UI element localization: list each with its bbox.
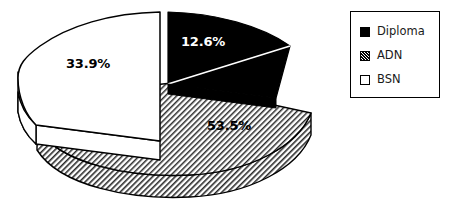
legend-label-bsn: BSN [377, 74, 401, 86]
legend-label-diploma: Diploma [377, 26, 425, 38]
diploma-slice [168, 12, 290, 98]
bsn-slice-label: 33.9% [66, 56, 110, 71]
bsn-slice-top [18, 12, 160, 141]
adn-slice-label: 53.5% [207, 118, 251, 133]
chart-legend: Diploma ADN BSN [350, 11, 440, 98]
legend-item-diploma[interactable]: Diploma [360, 20, 438, 44]
legend-label-adn: ADN [377, 50, 402, 62]
legend-swatch-white-icon [360, 75, 370, 85]
pie-chart: 12.6% 33.9% 53.5% Diploma ADN BSN [0, 0, 465, 211]
legend-item-bsn[interactable]: BSN [360, 68, 438, 92]
legend-swatch-solid-black-icon [360, 27, 370, 37]
diploma-slice-label: 12.6% [181, 34, 225, 49]
legend-item-list: Diploma ADN BSN [360, 20, 438, 92]
legend-item-adn[interactable]: ADN [360, 44, 438, 68]
legend-swatch-hatched-icon [360, 51, 370, 61]
